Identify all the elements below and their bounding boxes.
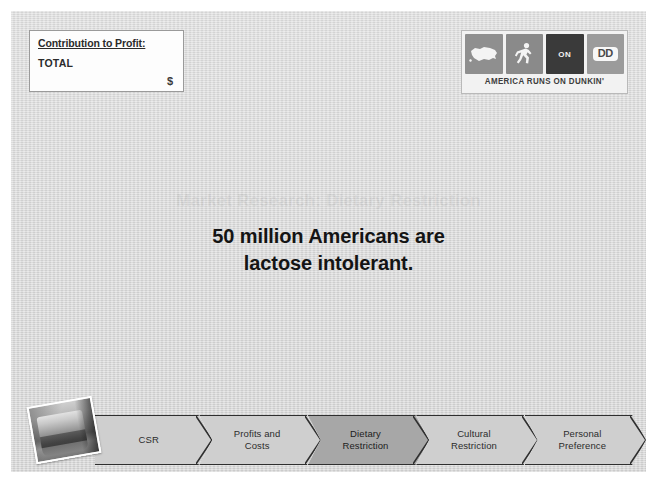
ghost-heading-watermark: Market Research: Dietary Restriction	[11, 191, 646, 211]
dunkin-donuts-logo: ON DD AMERICA RUNS ON DUNKIN'	[461, 30, 628, 94]
process-step-line2: Restriction	[343, 440, 389, 451]
headline-line-2: lactose intolerant.	[244, 252, 413, 274]
process-step-dietary-restriction[interactable]: Dietary Restriction	[308, 415, 429, 465]
on-tile-label: ON	[558, 50, 571, 59]
page-title: 50 million Americans are lactose intoler…	[71, 223, 586, 277]
process-step-label: Profits and Costs	[234, 428, 281, 452]
process-step-line1: Dietary	[350, 428, 381, 439]
logo-tile-row: ON DD	[465, 34, 624, 74]
process-step-line1: Profits and	[234, 428, 281, 439]
process-step-csr[interactable]: CSR	[95, 415, 212, 465]
contribution-box-title: Contribution to Profit:	[38, 37, 175, 50]
process-step-label: Dietary Restriction	[343, 428, 389, 452]
chevron-arrow-icon	[630, 416, 646, 464]
dd-tile-label: DD	[593, 47, 618, 61]
usa-map-icon	[465, 34, 503, 74]
process-step-cultural-restriction[interactable]: Cultural Restriction	[416, 415, 537, 465]
presentation-slide: Contribution to Profit: TOTAL $ ON	[11, 11, 646, 472]
process-step-label: Cultural Restriction	[451, 428, 497, 452]
process-step-line2: Preference	[559, 440, 606, 451]
process-step-label: CSR	[139, 434, 159, 446]
contribution-box-amount: $	[167, 75, 173, 87]
process-step-personal-preference[interactable]: Personal Preference	[525, 415, 646, 465]
contribution-to-profit-box: Contribution to Profit: TOTAL $	[29, 30, 184, 92]
process-chevron-bar: CSR Profits and Costs Dietary Restrictio…	[95, 415, 633, 465]
process-step-line2: Costs	[245, 440, 270, 451]
process-step-label: Personal Preference	[559, 428, 606, 452]
process-step-profits-and-costs[interactable]: Profits and Costs	[199, 415, 320, 465]
contribution-box-total-label: TOTAL	[38, 57, 175, 69]
headline-line-1: 50 million Americans are	[212, 225, 445, 247]
dd-tile: DD	[587, 34, 625, 74]
process-step-line1: Cultural	[457, 428, 491, 439]
coffee-cup-photo	[26, 396, 101, 465]
process-step-line2: Restriction	[451, 440, 497, 451]
runner-icon	[506, 34, 544, 74]
logo-tagline: AMERICA RUNS ON DUNKIN'	[465, 77, 624, 86]
on-tile: ON	[546, 34, 584, 74]
process-step-line1: Personal	[563, 428, 601, 439]
process-step-line1: CSR	[139, 434, 159, 445]
